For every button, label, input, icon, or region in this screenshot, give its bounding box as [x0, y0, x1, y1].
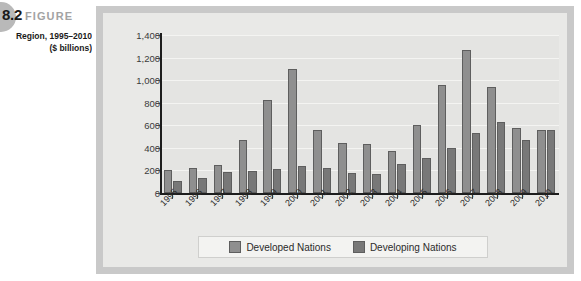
legend-label: Developed Nations: [246, 242, 331, 253]
chart-legend: Developed NationsDeveloping Nations: [198, 236, 488, 258]
bar-developing-nations[interactable]: [497, 122, 505, 193]
legend-swatch-icon: [229, 241, 241, 253]
plot-area: [161, 35, 559, 193]
y-axis-tick-label: 600: [108, 120, 160, 131]
bar-developed-nations[interactable]: [462, 50, 470, 193]
bar-developing-nations[interactable]: [522, 140, 530, 193]
bar-group: [534, 35, 559, 193]
bar-developed-nations[interactable]: [537, 130, 545, 193]
figure-caption-block: 8.2FIGURE Region, 1995–2010 ($ billions): [0, 0, 95, 281]
legend-swatch-icon: [353, 241, 365, 253]
bar-group: [360, 35, 385, 193]
bar-group: [435, 35, 460, 193]
bar-group: [410, 35, 435, 193]
bar-group: [236, 35, 261, 193]
bar-group: [186, 35, 211, 193]
bar-developed-nations[interactable]: [487, 87, 495, 193]
bar-group: [310, 35, 335, 193]
y-axis-tick-label: 0: [108, 188, 160, 199]
bar-developed-nations[interactable]: [438, 85, 446, 193]
bar-group: [385, 35, 410, 193]
y-axis-tick-label: 1,000: [108, 75, 160, 86]
bar-developed-nations[interactable]: [413, 125, 421, 193]
bar-developed-nations[interactable]: [338, 143, 346, 193]
bar-developed-nations[interactable]: [363, 144, 371, 193]
figure-caption-text: Region, 1995–2010 ($ billions): [0, 30, 92, 54]
y-axis-tick-label: 400: [108, 142, 160, 153]
y-axis-tick-label: 1,400: [108, 30, 160, 41]
bar-developed-nations[interactable]: [239, 140, 247, 193]
y-axis-tick-label: 800: [108, 97, 160, 108]
y-axis-line: [160, 33, 162, 195]
bar-developing-nations[interactable]: [447, 148, 455, 193]
y-axis-tick-label: 1,200: [108, 52, 160, 63]
bar-developed-nations[interactable]: [388, 151, 396, 193]
bar-group: [335, 35, 360, 193]
bar-developed-nations[interactable]: [512, 128, 520, 193]
bar-group: [460, 35, 485, 193]
bar-group: [285, 35, 310, 193]
bar-group: [211, 35, 236, 193]
legend-entry[interactable]: Developing Nations: [353, 241, 457, 253]
bar-developed-nations[interactable]: [288, 69, 296, 193]
bar-developed-nations[interactable]: [313, 130, 321, 193]
legend-label: Developing Nations: [370, 242, 457, 253]
caption-line-1: Region, 1995–2010: [0, 30, 92, 42]
y-axis-labels: 02004006008001,0001,2001,400: [103, 35, 160, 193]
bar-developing-nations[interactable]: [547, 130, 555, 193]
bar-group: [484, 35, 509, 193]
bar-developed-nations[interactable]: [263, 100, 271, 193]
figure-word-label: FIGURE: [25, 10, 73, 22]
figure-header: 8.2FIGURE: [2, 6, 73, 24]
chart-panel: 02004006008001,0001,2001,400 19951996199…: [96, 6, 574, 274]
bar-group: [161, 35, 186, 193]
bar-group: [509, 35, 534, 193]
caption-line-2: ($ billions): [0, 42, 92, 54]
y-axis-tick-label: 200: [108, 165, 160, 176]
figure-number: 8.2: [2, 6, 22, 23]
legend-entry[interactable]: Developed Nations: [229, 241, 331, 253]
bar-group: [261, 35, 286, 193]
x-axis-labels: 1995199619971998199920002001200220032004…: [160, 199, 559, 239]
chart-inner-surface: 02004006008001,0001,2001,400 19951996199…: [103, 13, 567, 267]
bar-developing-nations[interactable]: [472, 133, 480, 193]
